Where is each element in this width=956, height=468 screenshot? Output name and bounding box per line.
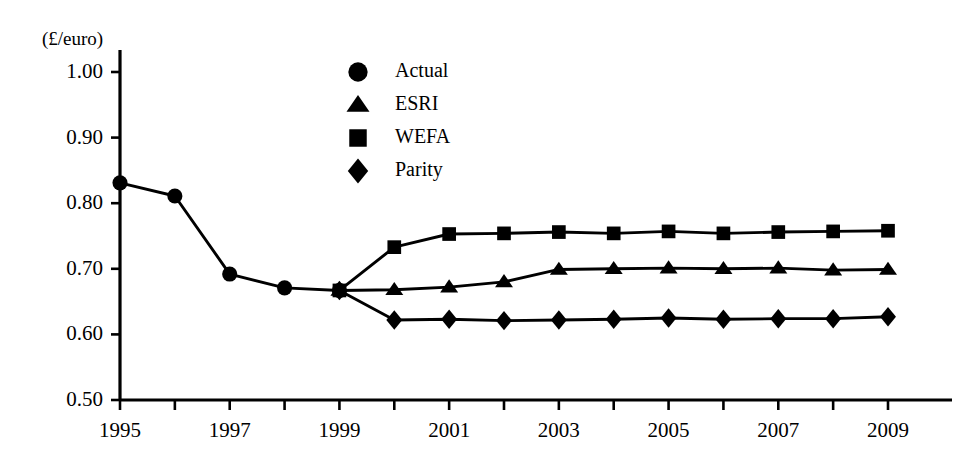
y-axis-tick-label: 0.50 <box>45 387 103 412</box>
data-point-parity <box>715 310 731 329</box>
legend-label-actual: Actual <box>395 59 448 82</box>
data-point-wefa <box>881 224 895 238</box>
legend-marker-actual <box>348 62 367 81</box>
y-axis-tick-label: 0.70 <box>45 256 103 281</box>
data-point-actual <box>222 266 237 281</box>
data-point-parity <box>661 308 677 327</box>
data-point-parity <box>551 310 567 329</box>
chart-plot-area <box>0 0 956 468</box>
legend-marker-esri <box>347 95 370 112</box>
data-point-actual <box>112 175 127 190</box>
data-point-wefa <box>497 227 511 241</box>
x-axis-tick-label: 2005 <box>629 418 709 443</box>
y-axis-tick-label: 1.00 <box>45 59 103 84</box>
y-axis-tick-label: 0.80 <box>45 190 103 215</box>
legend-marker-parity <box>348 159 368 184</box>
legend-marker-wefa <box>349 129 366 146</box>
data-point-parity <box>770 309 786 328</box>
data-point-wefa <box>771 225 785 239</box>
x-axis-tick-label: 2007 <box>738 418 818 443</box>
data-point-wefa <box>442 227 456 241</box>
data-point-parity <box>606 310 622 329</box>
data-point-parity <box>441 310 457 329</box>
x-axis-tick-label: 1995 <box>80 418 160 443</box>
data-point-wefa <box>826 225 840 239</box>
legend-label-esri: ESRI <box>395 92 438 115</box>
y-axis-tick-label: 0.90 <box>45 125 103 150</box>
legend-label-parity: Parity <box>395 158 443 181</box>
data-point-parity <box>825 309 841 328</box>
x-axis-tick-label: 2003 <box>519 418 599 443</box>
legend-label-wefa: WEFA <box>395 125 450 148</box>
x-axis-tick-label: 1999 <box>299 418 379 443</box>
data-point-wefa <box>662 225 676 239</box>
y-axis-unit-label: (£/euro) <box>42 28 103 50</box>
data-point-wefa <box>717 227 731 241</box>
data-point-actual <box>167 188 182 203</box>
x-axis-tick-label: 2009 <box>848 418 928 443</box>
data-point-parity <box>386 310 402 329</box>
x-axis-tick-label: 1997 <box>190 418 270 443</box>
data-point-wefa <box>552 225 566 239</box>
data-point-parity <box>496 311 512 330</box>
data-point-actual <box>277 280 292 295</box>
line-chart: (£/euro) 1.000.900.800.700.600.501995199… <box>0 0 956 468</box>
data-point-wefa <box>387 240 401 254</box>
data-point-wefa <box>607 227 621 241</box>
x-axis-tick-label: 2001 <box>409 418 489 443</box>
data-point-parity <box>880 307 896 326</box>
y-axis-tick-label: 0.60 <box>45 321 103 346</box>
